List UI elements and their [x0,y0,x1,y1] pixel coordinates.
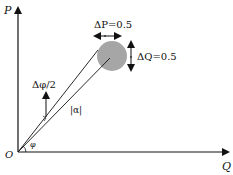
phi-arc [23,146,26,152]
phi-label: φ [30,140,36,149]
alpha-magnitude-label: |α| [70,105,82,116]
origin-label: O [5,149,13,160]
p-axis-label: P [3,4,12,17]
diagram-canvas: P Q O ΔP=0.5 ΔQ=0.5 Δφ/2 |α| φ [0,0,233,175]
phase-space-diagram: P Q O ΔP=0.5 ΔQ=0.5 Δφ/2 |α| φ [0,0,233,175]
cone-lower-line [18,58,110,152]
delta-q-label: ΔQ=0.5 [137,51,177,62]
delta-p-label: ΔP=0.5 [94,19,132,30]
q-axis-label: Q [222,160,231,173]
cone-upper-line [18,50,98,152]
delta-phi-label: Δφ/2 [32,79,56,90]
